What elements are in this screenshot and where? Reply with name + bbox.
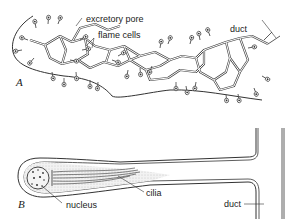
nucleus-label: nucleus — [66, 200, 97, 210]
duct-b-label: duct — [224, 199, 241, 209]
flame-cell-large — [18, 128, 284, 219]
flame-cells-label: flame cells — [98, 30, 141, 40]
panel-a-letter: A — [16, 76, 23, 88]
excretory-pore-label: excretory pore — [86, 14, 144, 24]
excretory-pore-leader — [76, 18, 82, 26]
panel-b-letter: B — [18, 198, 25, 210]
cilia-label: cilia — [146, 188, 162, 198]
duct-a-label: duct — [230, 24, 247, 34]
